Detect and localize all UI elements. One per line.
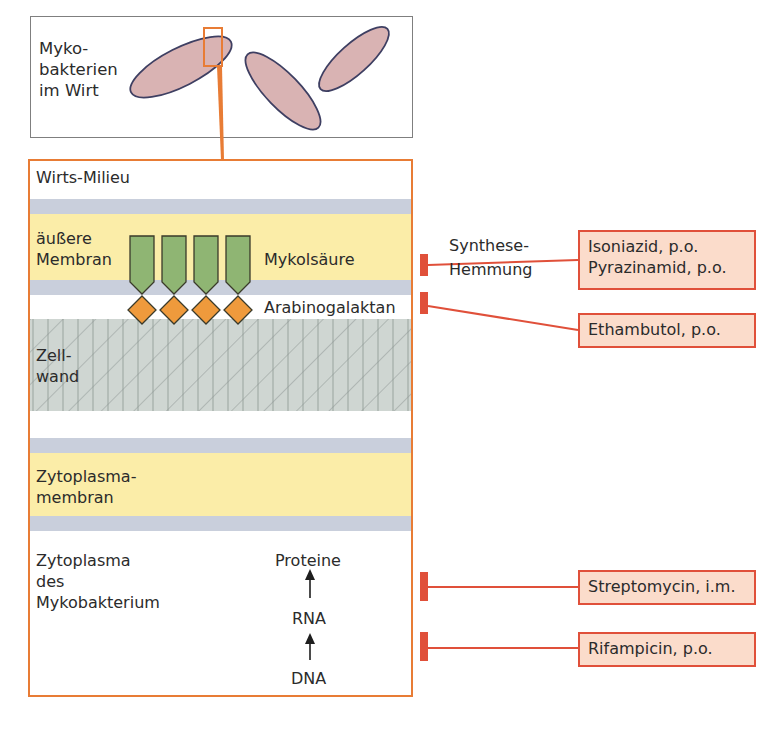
inhibitor-bar-arabinogalactan <box>420 292 428 314</box>
inhibitor-bar-mycolic <box>420 254 428 276</box>
outer-membrane-label: äußere Membran <box>36 228 112 270</box>
arrow-head-icon <box>305 633 315 644</box>
mycolic-arabinogalactan-graphics <box>0 0 781 741</box>
protein-label: Proteine <box>275 550 341 571</box>
environment-label: Wirts-Milieu <box>36 167 130 188</box>
arabinogalactan-label: Arabinogalaktan <box>264 297 396 318</box>
inhibitor-bar-protein <box>420 572 428 601</box>
rna-label: RNA <box>292 608 326 629</box>
mycolic-acid-label: Mykolsäure <box>264 249 355 270</box>
arabinogalactan-4 <box>224 296 252 324</box>
cytoplasmic-membrane-label: Zytoplasma- membran <box>36 466 136 508</box>
arabinogalactan-2 <box>160 296 188 324</box>
drug-box-ethambutol: Ethambutol, p.o. <box>578 313 756 348</box>
cytoplasm-label: Zytoplasma des Mykobakterium <box>36 550 160 613</box>
mycolic-acid-3 <box>194 236 218 294</box>
arabinogalactan-1 <box>128 296 156 324</box>
dna-label: DNA <box>291 668 326 689</box>
drug-box-isoniazid-pyrazinamid: Isoniazid, p.o. Pyrazinamid, p.o. <box>578 230 756 290</box>
inhibitor-line-ethambutol <box>428 306 578 330</box>
synthesis-inhibition-label: Synthese- Hemmung <box>449 234 532 282</box>
cell-wall-label: Zell- wand <box>36 345 79 387</box>
drug-box-rifampicin: Rifampicin, p.o. <box>578 632 756 667</box>
drug-box-streptomycin: Streptomycin, i.m. <box>578 570 756 605</box>
mycolic-acid-4 <box>226 236 250 294</box>
inhibitor-bar-rna <box>420 632 428 661</box>
mycolic-acid-1 <box>130 236 154 294</box>
arabinogalactan-3 <box>192 296 220 324</box>
mycolic-acid-2 <box>162 236 186 294</box>
